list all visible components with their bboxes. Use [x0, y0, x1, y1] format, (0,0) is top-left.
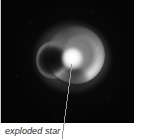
figure-exploded-star: exploded star: [0, 0, 147, 140]
caption-exploded-star: exploded star: [5, 126, 60, 137]
exploded-star-core: [62, 48, 83, 69]
astronomical-image: [1, 0, 134, 123]
supernova-remnant: [34, 22, 110, 92]
lower-shadow-region: [58, 68, 88, 90]
